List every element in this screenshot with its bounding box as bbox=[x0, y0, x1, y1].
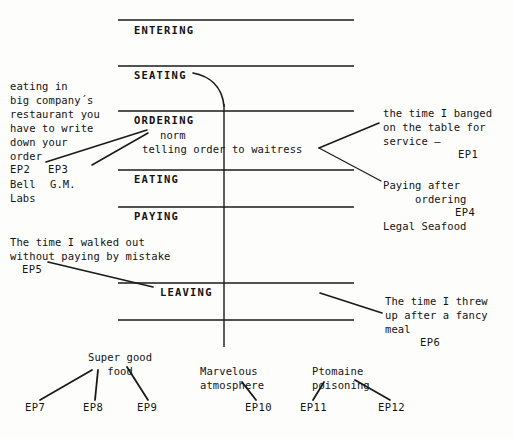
ep7-label: EP7 bbox=[25, 401, 45, 415]
leader-ep4 bbox=[319, 148, 381, 181]
stage-label-paying: PAYING bbox=[134, 210, 179, 224]
ordering-norm-label: norm bbox=[160, 129, 186, 143]
ep3-label: EP3 bbox=[48, 163, 68, 177]
leader-ep6 bbox=[320, 293, 382, 313]
ep5-label: EP5 bbox=[22, 263, 42, 277]
seating-to-spine-curve bbox=[193, 73, 224, 106]
bottom-group-label-marvelous-atmosphere: Marvelous atmosphere bbox=[200, 364, 264, 392]
ep2-source-label: Bell bbox=[10, 178, 36, 192]
ep10-label: EP10 bbox=[245, 401, 272, 415]
annotation-ep6-text: The time I threw up after a fancy meal bbox=[385, 294, 488, 336]
diagram-canvas: ENTERING SEATING ORDERING EATING PAYING … bbox=[0, 0, 514, 439]
ep4-label: EP4 bbox=[455, 206, 475, 220]
ep9-label: EP9 bbox=[137, 401, 157, 415]
stage-label-leaving: LEAVING bbox=[160, 286, 213, 300]
annotation-left-ordering-text: eating in big company´s restaurant you h… bbox=[10, 79, 100, 163]
ep3-source-label: G.M. bbox=[50, 178, 76, 192]
stage-label-ordering: ORDERING bbox=[134, 114, 194, 128]
bottom-group-label-super-good-food: Super good food bbox=[88, 350, 152, 378]
leader-ep5 bbox=[48, 262, 153, 287]
ep12-label: EP12 bbox=[378, 401, 405, 415]
ep1-label: EP1 bbox=[458, 148, 478, 162]
stage-label-seating: SEATING bbox=[134, 69, 187, 83]
ep11-label: EP11 bbox=[300, 401, 327, 415]
ep8-label: EP8 bbox=[83, 401, 103, 415]
stage-label-eating: EATING bbox=[134, 173, 179, 187]
stage-label-entering: ENTERING bbox=[134, 24, 194, 38]
ep2-source-label-2: Labs bbox=[10, 192, 36, 206]
annotation-ep4-text: Paying after ordering bbox=[383, 178, 466, 206]
annotation-ep1-text: the time I banged on the table for servi… bbox=[383, 106, 492, 148]
ep2-label: EP2 bbox=[10, 163, 30, 177]
bottom-group-label-ptomaine-poisoning: Ptomaine poisoning bbox=[312, 364, 370, 392]
leader-ep7 bbox=[40, 370, 92, 400]
ep4-source-label: Legal Seafood bbox=[383, 220, 466, 234]
ordering-norm-text: telling order to waitress bbox=[142, 143, 303, 157]
leader-ep1 bbox=[319, 123, 379, 148]
ep6-label: EP6 bbox=[420, 336, 440, 350]
annotation-ep5-text: The time I walked out without paying by … bbox=[10, 235, 171, 263]
